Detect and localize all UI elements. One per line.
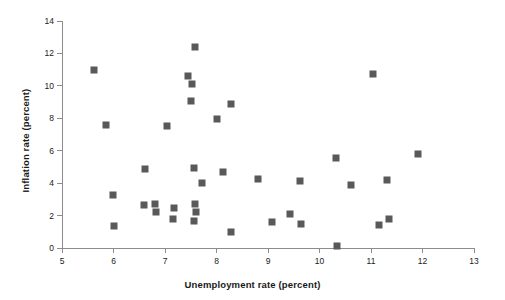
plot-axes-canvas [0, 0, 505, 300]
data-point [170, 215, 177, 222]
data-point [348, 181, 355, 188]
data-point [188, 81, 195, 88]
data-point [190, 164, 197, 171]
data-point [332, 155, 339, 162]
y-tick-label: 2 [34, 211, 54, 221]
data-point [109, 192, 116, 199]
x-tick-label: 7 [163, 256, 168, 266]
y-axis-title: Inflation rate (percent) [20, 61, 31, 221]
y-tick-label: 14 [34, 16, 54, 26]
y-tick-label: 4 [34, 178, 54, 188]
data-point [141, 202, 148, 209]
data-point [384, 176, 391, 183]
y-tick-label: 0 [34, 243, 54, 253]
data-point [193, 209, 200, 216]
data-point [228, 228, 235, 235]
data-point [171, 204, 178, 211]
data-point [199, 180, 206, 187]
y-tick-label: 6 [34, 146, 54, 156]
data-point [164, 123, 171, 130]
x-tick-label: 6 [111, 256, 116, 266]
x-tick-label: 12 [418, 256, 427, 266]
data-point [220, 168, 227, 175]
y-tick-label: 8 [34, 113, 54, 123]
data-point [213, 115, 220, 122]
data-point [192, 44, 199, 51]
x-tick-label: 9 [266, 256, 271, 266]
data-point [188, 97, 195, 104]
x-tick-label: 5 [60, 256, 65, 266]
data-point [103, 122, 110, 129]
data-point [296, 178, 303, 185]
data-point [90, 67, 97, 74]
data-point [191, 218, 198, 225]
x-tick-label: 13 [469, 256, 478, 266]
data-point [110, 222, 117, 229]
x-tick-label: 11 [367, 256, 376, 266]
data-point [141, 166, 148, 173]
data-point [334, 242, 341, 249]
data-point [386, 215, 393, 222]
y-tick-label: 10 [34, 81, 54, 91]
data-point [415, 151, 422, 158]
x-tick-label: 10 [315, 256, 324, 266]
data-point [228, 100, 235, 107]
y-tick-label: 12 [34, 48, 54, 58]
data-point [254, 175, 261, 182]
data-point [153, 209, 160, 216]
data-point [152, 201, 159, 208]
x-axis-title: Unemployment rate (percent) [0, 279, 505, 290]
data-point [286, 210, 293, 217]
data-point [184, 73, 191, 80]
data-point [269, 219, 276, 226]
data-point [375, 221, 382, 228]
data-point [192, 200, 199, 207]
data-point [298, 220, 305, 227]
scatter-plot-figure: 5678910111213 02468101214 Unemployment r… [0, 0, 505, 300]
data-point [370, 71, 377, 78]
x-tick-label: 8 [214, 256, 219, 266]
